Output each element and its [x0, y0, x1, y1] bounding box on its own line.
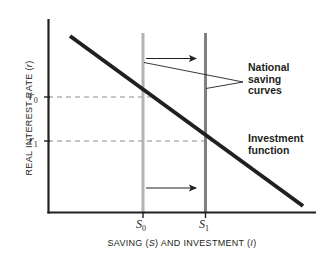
y-axis-title-post: ) — [24, 60, 34, 63]
x-tick-label-s0: S0 — [136, 217, 146, 232]
chart-plot-area — [0, 0, 330, 258]
x-tick-label-s0-sub: 0 — [142, 224, 146, 233]
annotation-national-saving-line3: curves — [248, 85, 324, 97]
annotation-investment-line1: Investment — [248, 133, 326, 145]
annotation-national-saving-curves: National saving curves — [248, 62, 324, 97]
annotation-investment-function: Investment function — [248, 133, 326, 156]
x-axis-title-mid: ) AND INVESTMENT ( — [155, 238, 250, 248]
x-axis-title-pre: SAVING ( — [108, 238, 149, 248]
annotation-national-saving-line1: National — [248, 62, 324, 74]
y-axis-title: REAL INTEREST RATE (r) — [24, 33, 34, 203]
national-saving-leader-upper — [144, 63, 243, 83]
x-tick-label-s1: S1 — [199, 217, 209, 232]
x-axis-title: SAVING (S) AND INVESTMENT (I) — [48, 238, 316, 248]
national-saving-leader-lower — [206, 82, 243, 89]
y-tick-label-r0: r0 — [29, 89, 38, 104]
y-tick-label-r0-sub: 0 — [34, 96, 38, 105]
x-tick-label-s1-sub: 1 — [205, 224, 209, 233]
y-axis-title-variable: r — [24, 64, 34, 67]
y-tick-label-r1: r1 — [29, 133, 38, 148]
y-tick-label-r1-sub: 1 — [34, 140, 38, 149]
y-axis-title-pre: REAL INTEREST RATE ( — [24, 67, 34, 175]
annotation-investment-line2: function — [248, 145, 326, 157]
chart-figure: REAL INTEREST RATE (r) SAVING (S) AND IN… — [0, 0, 330, 258]
x-axis-title-post: ) — [253, 238, 256, 248]
